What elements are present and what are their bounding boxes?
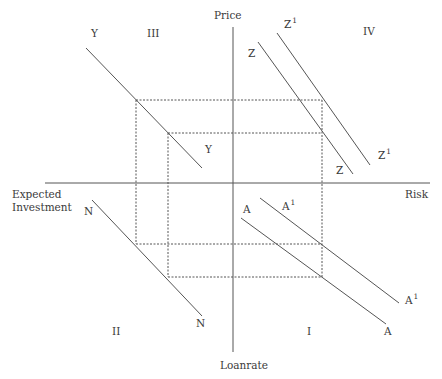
a1-base: A [405,294,413,306]
z1-base: Z [378,149,385,161]
four-quadrant-diagram: Price Loanrate Expected Investment Risk … [0,0,442,379]
axis-label-loanrate: Loanrate [220,359,268,372]
quadrant-label-iii: III [147,27,159,40]
quadrant-label-ii: II [112,325,120,338]
projection-lines [136,100,322,277]
curve-label-z1-end: Z1 [378,145,391,162]
curve-label-n-end: N [196,317,205,330]
axis-label-investment: Investment [12,201,72,214]
curve-label-z-start: Z [248,47,255,60]
curve-label-n-start: N [84,205,93,218]
diagram-canvas [0,0,442,379]
curve-label-a-end: A [384,325,392,338]
curve-label-y-end: Y [205,143,212,156]
z1-sup: 1 [386,147,391,156]
z1-base: Z [284,18,291,30]
curve-label-z-end: Z [336,164,343,177]
curve-a1 [260,198,399,303]
quadrant-label-iv: IV [363,25,375,38]
a1-sup: 1 [414,292,419,301]
curve-label-a1-start: A1 [282,196,295,213]
curve-label-z1-start: Z1 [284,14,297,31]
curve-z1 [277,33,370,165]
a1-base: A [282,200,290,212]
axis-label-expected: Expected [12,188,62,201]
axis-label-price: Price [214,9,242,22]
z1-sup: 1 [292,16,297,25]
curve-n [92,200,202,316]
curve-z [258,42,353,174]
axis-label-risk: Risk [405,188,428,201]
a1-sup: 1 [291,198,296,207]
curve-y [86,48,202,168]
quadrant-label-i: I [307,325,311,338]
curve-a [241,218,386,324]
curve-label-a-start: A [243,203,251,216]
curve-label-y-start: Y [91,27,98,40]
curve-label-a1-end: A1 [405,290,418,307]
